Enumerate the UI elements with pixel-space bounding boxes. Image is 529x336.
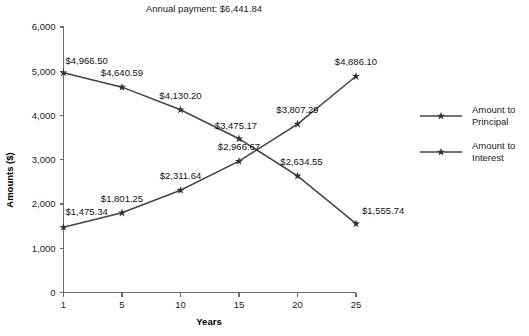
data-point-label: $4,640.59: [101, 67, 143, 78]
x-axis: 1510152025 Years: [61, 293, 361, 328]
x-axis-title: Years: [196, 316, 221, 327]
y-tick-label: 3,000: [32, 154, 56, 165]
chart-container: Annual payment: $6,441.84 01,0002,0003,0…: [0, 0, 529, 336]
data-point-star-icon: [235, 157, 243, 165]
data-point-label: $2,311.64: [160, 170, 202, 181]
data-point-label: $4,966.50: [66, 55, 108, 66]
y-tick-label: 5,000: [32, 66, 56, 77]
data-point-label: $3,807.29: [276, 104, 318, 115]
data-point-label: $2,634.55: [280, 156, 322, 167]
legend-label-principal-line1: Amount to: [472, 104, 515, 115]
x-tick-label: 15: [234, 299, 245, 310]
line-chart: Annual payment: $6,441.84 01,0002,0003,0…: [0, 0, 529, 336]
legend-item-interest[interactable]: Amount to Interest: [420, 140, 515, 163]
x-tick-label: 5: [119, 299, 124, 310]
data-point-label: $3,475.17: [215, 120, 257, 131]
data-point-label: $1,555.74: [362, 205, 404, 216]
data-point-label: $4,130.20: [159, 90, 201, 101]
y-tick-label: 1,000: [32, 243, 56, 254]
y-tick-label: 0: [50, 287, 55, 298]
data-point-label: $1,801.25: [101, 193, 143, 204]
y-axis: 01,0002,0003,0004,0005,0006,000 Amounts …: [4, 21, 64, 298]
legend-label-principal-line2: Principal: [472, 116, 508, 127]
x-tick-label: 1: [61, 299, 66, 310]
y-tick-label: 2,000: [32, 198, 56, 209]
y-axis-title: Amounts ($): [4, 152, 15, 207]
legend-label-interest-line2: Interest: [472, 152, 504, 163]
chart-title: Annual payment: $6,441.84: [146, 3, 262, 14]
data-point-label: $1,475.34: [66, 206, 108, 217]
y-tick-label: 4,000: [32, 110, 56, 121]
data-point-label: $4,886.10: [335, 56, 377, 67]
data-point-label: $2,966.67: [218, 141, 260, 152]
legend-label-interest-line1: Amount to: [472, 140, 515, 151]
series-line-principal: [64, 76, 357, 227]
data-point-star-icon: [177, 186, 185, 194]
y-tick-label: 6,000: [32, 21, 56, 32]
x-tick-label: 10: [175, 299, 186, 310]
x-tick-label: 20: [292, 299, 303, 310]
x-tick-label: 25: [351, 299, 362, 310]
legend: Amount to Principal Amount to Interest: [420, 104, 515, 163]
legend-item-principal[interactable]: Amount to Principal: [420, 104, 515, 127]
